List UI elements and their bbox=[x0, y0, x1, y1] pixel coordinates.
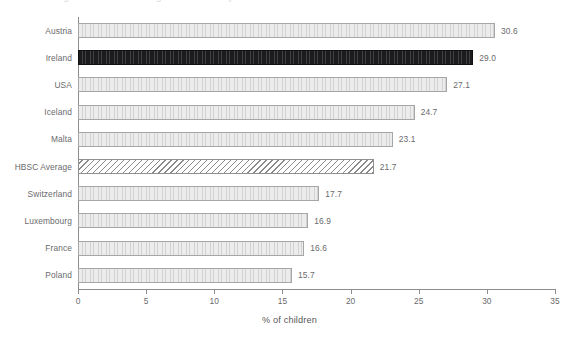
x-axis-tick bbox=[419, 289, 420, 294]
x-axis-title: % of children bbox=[0, 315, 579, 325]
bar-row: Austria30.6 bbox=[78, 17, 555, 44]
bar-luxembourg[interactable]: 16.9 bbox=[78, 213, 308, 228]
bar-value-label: 23.1 bbox=[399, 134, 416, 144]
x-axis-tick bbox=[214, 289, 215, 294]
bar-value-label: 21.7 bbox=[380, 162, 397, 172]
bar-value-label: 27.1 bbox=[453, 80, 470, 90]
bar-value-label: 16.9 bbox=[314, 216, 331, 226]
bar-hbsc-average[interactable]: 21.7 bbox=[78, 159, 374, 174]
category-label: Ireland bbox=[46, 53, 72, 63]
bar-row: Ireland29.0 bbox=[78, 44, 555, 71]
category-label: Poland bbox=[45, 270, 72, 280]
bar-row: France16.6 bbox=[78, 235, 555, 262]
x-axis-tick-label: 20 bbox=[346, 296, 355, 306]
category-label: Switzerland bbox=[28, 189, 72, 199]
bar-poland[interactable]: 15.7 bbox=[78, 268, 292, 283]
bar-value-label: 15.7 bbox=[298, 270, 315, 280]
x-axis-tick bbox=[282, 289, 283, 294]
category-label: Austria bbox=[45, 26, 72, 36]
x-axis-tick bbox=[146, 289, 147, 294]
bar-row: Switzerland17.7 bbox=[78, 180, 555, 207]
bar-usa[interactable]: 27.1 bbox=[78, 77, 447, 92]
x-axis-tick-label: 30 bbox=[482, 296, 491, 306]
bar-value-label: 30.6 bbox=[501, 26, 518, 36]
x-axis-tick-label: 15 bbox=[278, 296, 287, 306]
bar-france[interactable]: 16.6 bbox=[78, 241, 304, 256]
category-label: Iceland bbox=[44, 107, 72, 117]
chart-title: Figure: children drinking soft drinks da… bbox=[55, 0, 233, 2]
bar-row: Iceland24.7 bbox=[78, 99, 555, 126]
bar-row: Malta23.1 bbox=[78, 126, 555, 153]
bar-value-label: 29.0 bbox=[479, 53, 496, 63]
bar-iceland[interactable]: 24.7 bbox=[78, 105, 415, 120]
x-axis-tick bbox=[78, 289, 79, 294]
category-label: HBSC Average bbox=[15, 162, 72, 172]
bar-malta[interactable]: 23.1 bbox=[78, 132, 393, 147]
bar-row: HBSC Average21.7 bbox=[78, 153, 555, 180]
x-axis-tick bbox=[487, 289, 488, 294]
bar-row: USA27.1 bbox=[78, 71, 555, 98]
bar-value-label: 16.6 bbox=[310, 243, 327, 253]
x-axis-tick-label: 5 bbox=[144, 296, 149, 306]
bar-chart: Figure: children drinking soft drinks da… bbox=[0, 0, 579, 341]
bar-value-label: 24.7 bbox=[421, 107, 438, 117]
x-axis-tick-label: 0 bbox=[76, 296, 81, 306]
category-label: Malta bbox=[51, 134, 72, 144]
x-axis-line bbox=[78, 289, 556, 290]
x-axis-tick-label: 25 bbox=[414, 296, 423, 306]
bar-value-label: 17.7 bbox=[325, 189, 342, 199]
x-axis-tick bbox=[351, 289, 352, 294]
category-label: USA bbox=[54, 80, 72, 90]
bar-switzerland[interactable]: 17.7 bbox=[78, 186, 319, 201]
category-label: France bbox=[45, 243, 72, 253]
bar-row: Luxembourg16.9 bbox=[78, 207, 555, 234]
plot-area: Austria30.6Ireland29.0USA27.1Iceland24.7… bbox=[78, 17, 555, 289]
bar-row: Poland15.7 bbox=[78, 262, 555, 289]
bar-austria[interactable]: 30.6 bbox=[78, 23, 495, 38]
bar-ireland[interactable]: 29.0 bbox=[78, 50, 473, 65]
category-label: Luxembourg bbox=[24, 216, 72, 226]
x-axis-tick bbox=[555, 289, 556, 294]
x-axis-tick-label: 10 bbox=[210, 296, 219, 306]
x-axis-tick-label: 35 bbox=[550, 296, 559, 306]
